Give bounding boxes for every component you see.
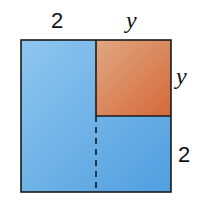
label-top-right: y bbox=[126, 8, 137, 32]
area-model-diagram bbox=[0, 0, 201, 203]
label-right-top: y bbox=[176, 64, 187, 88]
orange-square-y-by-y bbox=[96, 40, 171, 116]
label-right-bottom: 2 bbox=[178, 144, 190, 166]
label-top-left: 2 bbox=[51, 10, 63, 32]
